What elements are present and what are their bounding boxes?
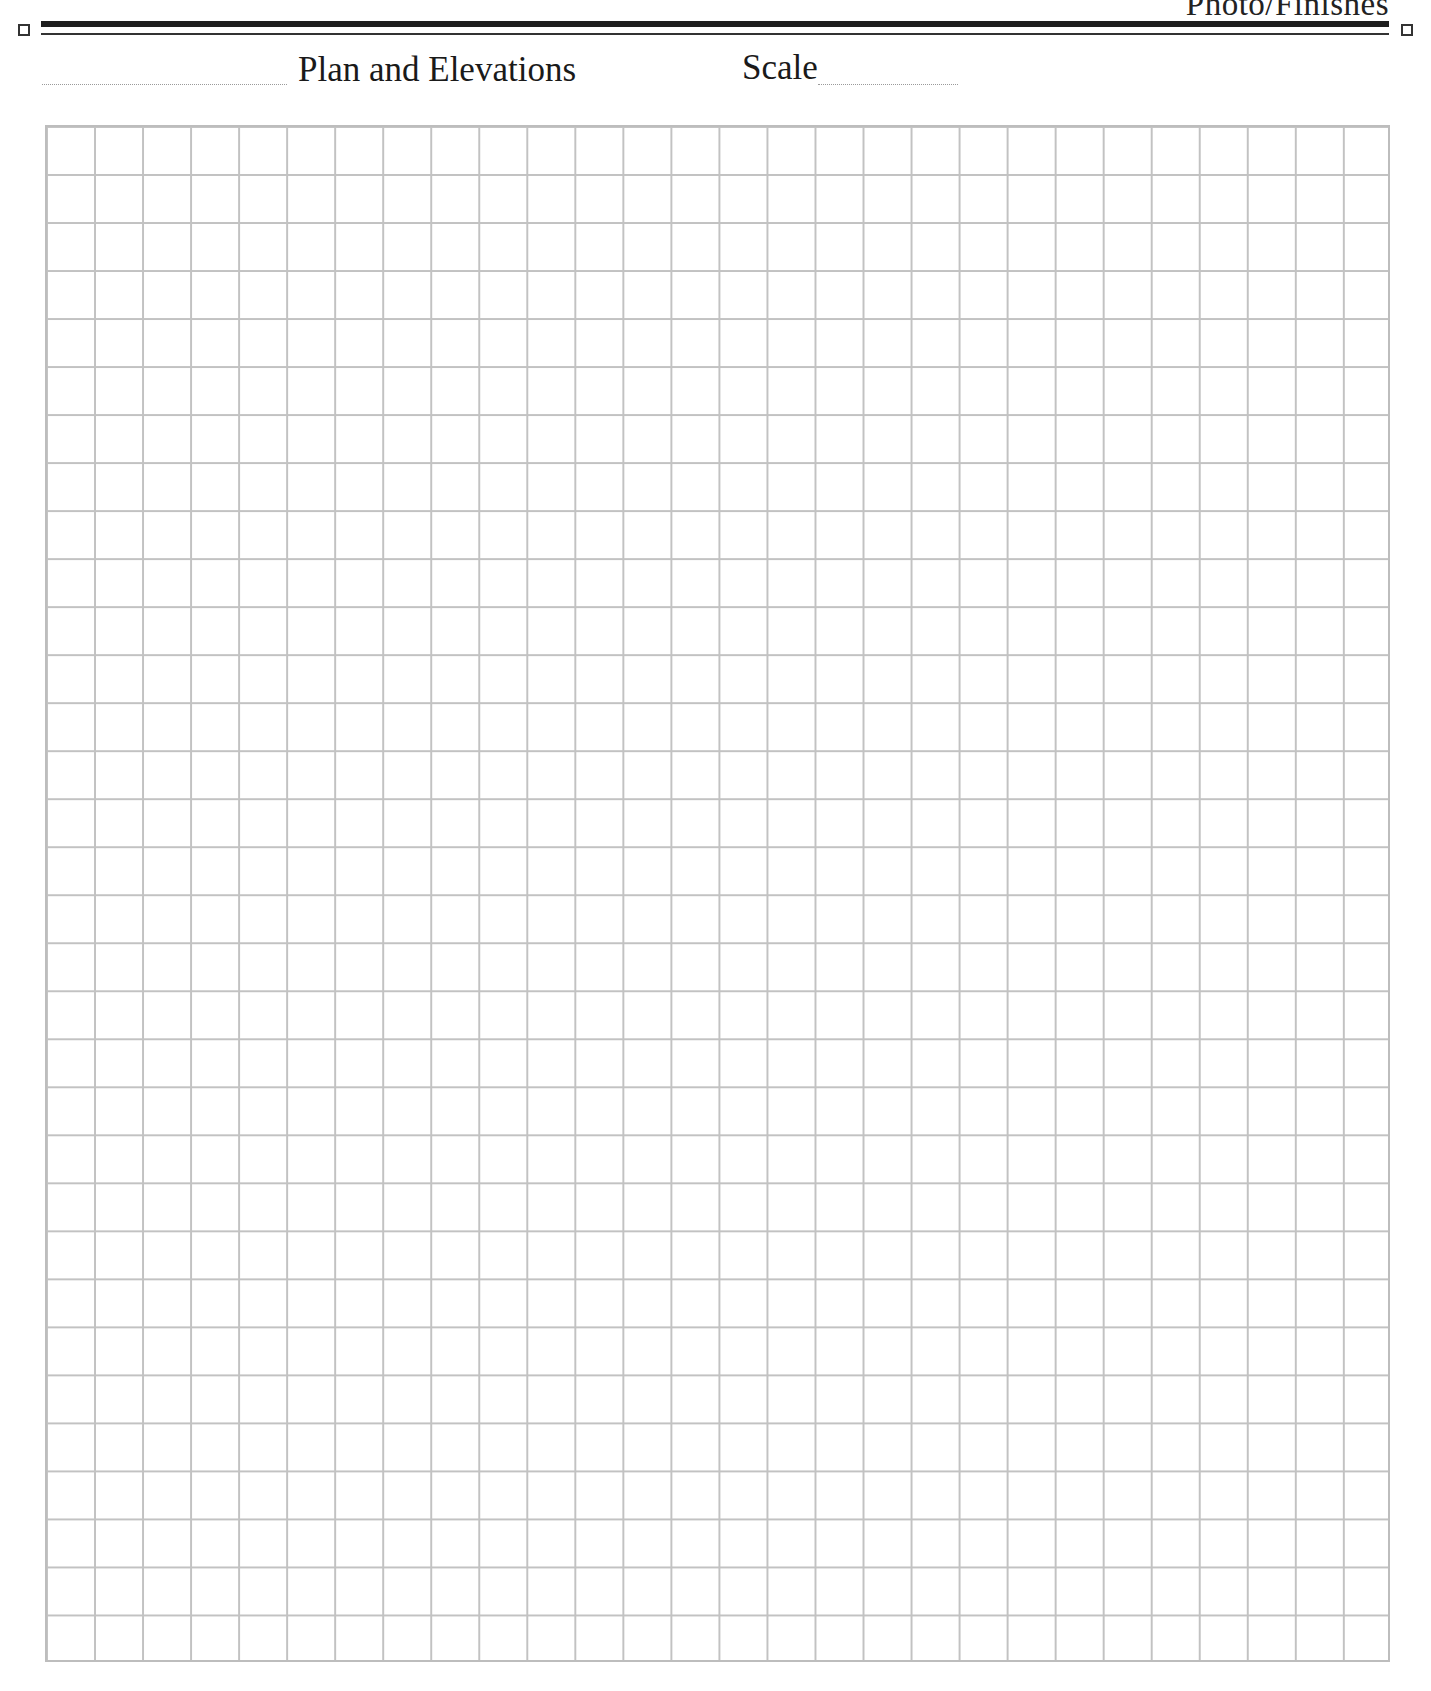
- scale-field[interactable]: [818, 84, 958, 85]
- heading-row: Plan and Elevations Scale: [0, 46, 1431, 96]
- left-checkbox-icon: [18, 24, 30, 36]
- page-title: Plan and Elevations: [298, 50, 576, 90]
- name-field[interactable]: [42, 84, 287, 85]
- right-checkbox-icon: [1401, 24, 1413, 36]
- scale-label: Scale: [742, 48, 818, 88]
- drawing-grid[interactable]: [45, 125, 1390, 1662]
- header-rule-thick: [41, 21, 1389, 27]
- section-label: Photo/Finishes: [1186, 0, 1389, 23]
- header-rule-thin: [41, 33, 1389, 35]
